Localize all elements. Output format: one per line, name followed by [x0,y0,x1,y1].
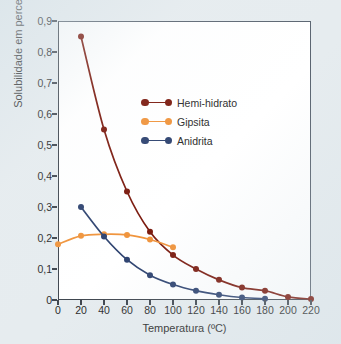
data-point-marker [239,285,245,291]
data-point-marker [124,189,130,195]
y-axis-tick-label: 0,7 [37,78,52,89]
figure-container: 00,10,20,30,40,50,60,70,80,9 02040608010… [0,0,341,344]
x-axis-tick-mark [310,300,312,305]
x-axis-tick-mark [172,300,174,305]
legend-label: Anidrita [172,135,213,147]
x-axis-tick-mark [218,300,220,305]
y-axis-tick-mark [52,206,57,208]
x-axis-tick-mark [126,300,128,305]
legend-item-gipsita: Gipsita [141,112,271,131]
x-axis-title: Temperatura (ºC) [58,322,311,334]
data-point-marker [124,257,130,263]
data-point-marker [262,288,268,294]
data-point-marker [216,277,222,283]
legend-marker-icon [141,116,172,128]
series-line [58,234,173,247]
data-point-marker [170,244,176,250]
y-axis-tick-label: 0,5 [37,140,52,151]
legend-label: Hemi-hidrato [172,97,237,109]
chart-canvas [58,21,311,300]
x-axis-tick-mark [57,300,59,305]
data-point-marker [285,294,291,300]
data-point-marker [147,237,153,243]
y-axis-tick-mark [52,299,57,301]
x-axis-tick-labels: 020406080100120140160180200220 [0,305,341,321]
data-point-marker [193,266,199,272]
data-point-marker [170,282,176,288]
x-axis-tick-mark [195,300,197,305]
data-point-marker [147,229,153,235]
x-axis-tick-mark [287,300,289,305]
data-point-marker [78,204,84,210]
y-axis-tick-label: 0,4 [37,171,52,182]
y-axis-tick-label: 0,3 [37,202,52,213]
series-hemi-hidrato [78,34,314,303]
y-axis-tick-label: 0,1 [37,264,52,275]
data-point-marker [147,272,153,278]
x-axis-tick-mark [103,300,105,305]
y-axis-title: Solubilidade em percentual [8,0,29,181]
y-axis-tick-mark [52,20,57,22]
y-axis-tick-mark [52,82,57,84]
legend-marker-icon [141,135,172,147]
y-axis-tick-label: 0,9 [37,16,52,27]
y-axis-tick-mark [52,144,57,146]
data-point-marker [124,232,130,238]
y-axis-tick-mark [52,237,57,239]
legend-marker-icon [141,97,172,109]
x-axis-tick-label: 220 [298,305,324,316]
legend-label: Gipsita [172,116,210,128]
y-axis-tick-label: 0,2 [37,233,52,244]
y-axis-tick-mark [52,51,57,53]
y-axis-tick-label: 0,6 [37,109,52,120]
y-axis-tick-mark [52,268,57,270]
legend-item-anidrita: Anidrita [141,131,271,150]
x-axis-tick-mark [80,300,82,305]
data-point-marker [78,233,84,239]
x-axis-tick-mark [264,300,266,305]
y-axis-tick-mark [52,175,57,177]
y-axis-tick-label: 0,8 [37,47,52,58]
chart-legend: Hemi-hidrato Gipsita Anidrita [141,93,271,150]
data-point-marker [170,252,176,258]
data-point-marker [101,127,107,133]
data-point-marker [216,292,222,298]
data-point-marker [101,233,107,239]
data-point-marker [78,34,84,40]
data-point-marker [193,288,199,294]
legend-item-hemi-hidrato: Hemi-hidrato [141,93,271,112]
series-line [81,37,311,300]
x-axis-tick-mark [149,300,151,305]
x-axis-tick-mark [241,300,243,305]
y-axis-tick-mark [52,113,57,115]
data-point-marker [55,241,61,247]
